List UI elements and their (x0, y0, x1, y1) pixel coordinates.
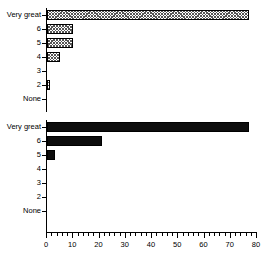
x-tick-minor (198, 233, 199, 236)
x-tick-minor (183, 233, 184, 236)
x-tick-major (125, 233, 126, 238)
bar-rows-top: Very great65432None (0, 8, 266, 112)
category-label: 4 (0, 50, 41, 64)
chart-panel-top: Very great65432None (0, 8, 266, 112)
bar-row: 4 (0, 50, 266, 64)
bar-row: 4 (0, 162, 266, 176)
x-tick-minor (188, 233, 189, 236)
x-tick-label: 50 (165, 240, 189, 250)
x-tick-minor (235, 233, 236, 236)
bar-row: Very great (0, 120, 266, 134)
x-tick-minor (225, 233, 226, 236)
y-axis-tick (42, 85, 46, 86)
bar-row: 5 (0, 148, 266, 162)
y-axis-tick (42, 141, 46, 142)
y-axis-tick (42, 127, 46, 128)
category-label: 3 (0, 64, 41, 78)
bar (47, 80, 50, 90)
x-axis: 01020304050607080 (0, 232, 266, 262)
category-label: 2 (0, 190, 41, 204)
x-tick-label: 0 (34, 240, 58, 250)
x-tick-label: 40 (139, 240, 163, 250)
category-label: 3 (0, 176, 41, 190)
x-tick-major (256, 233, 257, 238)
x-tick-major (46, 233, 47, 238)
x-tick-minor (109, 233, 110, 236)
bar-row: 5 (0, 36, 266, 50)
y-axis-tick (42, 211, 46, 212)
bar-row: 6 (0, 134, 266, 148)
bar (47, 38, 73, 48)
y-axis-tick (42, 29, 46, 30)
y-axis-tick (42, 169, 46, 170)
bar (47, 52, 60, 62)
bar (47, 10, 249, 20)
x-tick-major (204, 233, 205, 238)
x-tick-minor (141, 233, 142, 236)
x-tick-minor (209, 233, 210, 236)
y-axis-tick (42, 197, 46, 198)
x-tick-minor (156, 233, 157, 236)
x-tick-minor (219, 233, 220, 236)
bar-row: None (0, 204, 266, 218)
x-tick-minor (114, 233, 115, 236)
bar-row: 2 (0, 78, 266, 92)
bar-row: 3 (0, 176, 266, 190)
x-tick-minor (67, 233, 68, 236)
x-tick-major (177, 233, 178, 238)
category-label: 5 (0, 148, 41, 162)
x-tick-minor (246, 233, 247, 236)
x-tick-minor (146, 233, 147, 236)
category-label: None (0, 92, 41, 106)
y-axis-tick (42, 15, 46, 16)
x-tick-major (72, 233, 73, 238)
y-axis-tick (42, 43, 46, 44)
x-tick-label: 70 (218, 240, 242, 250)
y-axis-tick (42, 99, 46, 100)
x-tick-label: 20 (87, 240, 111, 250)
x-tick-minor (57, 233, 58, 236)
category-label: None (0, 204, 41, 218)
bar-row: 6 (0, 22, 266, 36)
x-tick-minor (130, 233, 131, 236)
category-label: Very great (0, 8, 41, 22)
bar-row: 2 (0, 190, 266, 204)
x-tick-minor (135, 233, 136, 236)
bar-row: Very great (0, 8, 266, 22)
x-tick-minor (240, 233, 241, 236)
y-axis-tick (42, 183, 46, 184)
category-label: 2 (0, 78, 41, 92)
bar (47, 122, 249, 132)
x-tick-major (99, 233, 100, 238)
x-tick-minor (62, 233, 63, 236)
category-label: 6 (0, 22, 41, 36)
y-axis-tick (42, 57, 46, 58)
bar-rows-bottom: Very great65432None (0, 120, 266, 232)
x-tick-label: 60 (192, 240, 216, 250)
x-tick-label: 80 (244, 240, 266, 250)
x-tick-major (230, 233, 231, 238)
x-tick-minor (88, 233, 89, 236)
x-tick-label: 10 (60, 240, 84, 250)
category-label: 6 (0, 134, 41, 148)
x-tick-minor (193, 233, 194, 236)
category-label: Very great (0, 120, 41, 134)
x-tick-minor (93, 233, 94, 236)
bar-row: None (0, 92, 266, 106)
y-axis-tick (42, 155, 46, 156)
x-tick-minor (104, 233, 105, 236)
x-tick-minor (51, 233, 52, 236)
bar (47, 136, 102, 146)
x-tick-label: 30 (113, 240, 137, 250)
y-axis-tick (42, 71, 46, 72)
x-tick-minor (167, 233, 168, 236)
x-tick-minor (172, 233, 173, 236)
bar-row: 3 (0, 64, 266, 78)
x-tick-minor (78, 233, 79, 236)
figure-horizontal-bar-charts: Very great65432None Very great65432None … (0, 0, 266, 262)
bar (47, 24, 73, 34)
x-tick-major (151, 233, 152, 238)
category-label: 4 (0, 162, 41, 176)
chart-panel-bottom: Very great65432None (0, 120, 266, 232)
category-label: 5 (0, 36, 41, 50)
